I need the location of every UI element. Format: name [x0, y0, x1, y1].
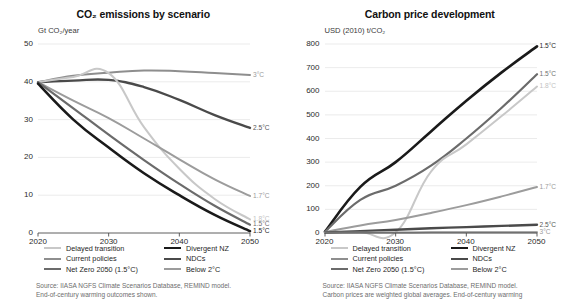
source-line: Carbon prices are weighted global averag… — [323, 290, 573, 299]
legend-row: Delayed transitionDivergent NZ — [331, 243, 571, 254]
y-axis-tick-label: 300 — [294, 157, 320, 166]
legend-item[interactable]: NDCs — [451, 254, 571, 263]
legend-item[interactable]: Current policies — [331, 254, 451, 263]
y-axis-tick-label: 40 — [7, 77, 33, 86]
series-end-label: 2.5°C — [540, 221, 557, 228]
y-axis-tick-label: 10 — [7, 190, 33, 199]
legend-swatch-icon — [451, 258, 468, 260]
legend-item[interactable]: Divergent NZ — [164, 244, 284, 253]
series-end-label: 3°C — [253, 71, 264, 78]
series-end-label: 1.5°C — [540, 42, 557, 49]
legend-item[interactable]: Below 2°C — [451, 265, 571, 274]
legend-item[interactable]: Net Zero 2050 (1.5°C) — [331, 265, 451, 274]
y-axis-tick-label: 0 — [7, 228, 33, 237]
series-line — [38, 82, 250, 225]
series-end-label: 1.7°C — [253, 192, 270, 199]
legend-swatch-icon — [331, 258, 348, 260]
y-axis-tick-label: 700 — [294, 63, 320, 72]
legend-swatch-icon — [331, 247, 348, 249]
legend-label: Net Zero 2050 (1.5°C) — [353, 265, 425, 274]
y-axis-tick-label: 30 — [7, 115, 33, 124]
y-axis-tick-label: 200 — [294, 181, 320, 190]
series-end-label: 1.8°C — [540, 82, 557, 89]
legend-row: Net Zero 2050 (1.5°C)Below 2°C — [331, 264, 571, 275]
legend-item[interactable]: NDCs — [164, 254, 284, 263]
legend-item[interactable]: Net Zero 2050 (1.5°C) — [44, 265, 164, 274]
legend-label: Delayed transition — [353, 244, 411, 253]
legend-label: Divergent NZ — [473, 244, 516, 253]
source-line: Source: IIASA NGFS Climate Scenarios Dat… — [323, 281, 573, 290]
source-line: End-of-century warming outcomes shown. — [36, 290, 286, 299]
legend-row: Delayed transitionDivergent NZ — [44, 243, 284, 254]
series-line — [38, 69, 250, 220]
legend-label: NDCs — [186, 254, 205, 263]
legend-label: Delayed transition — [66, 244, 124, 253]
legend-swatch-icon — [44, 247, 61, 249]
series-end-label: 1.5°C — [540, 70, 557, 77]
legend-item[interactable]: Divergent NZ — [451, 244, 571, 253]
series-line — [38, 79, 250, 128]
legend-item[interactable]: Current policies — [44, 254, 164, 263]
series-line — [325, 46, 537, 231]
legend-row: Current policiesNDCs — [331, 254, 571, 265]
legend-item[interactable]: Delayed transition — [331, 244, 451, 253]
legend-swatch-icon — [331, 268, 348, 270]
y-axis-tick-label: 600 — [294, 86, 320, 95]
y-axis-tick-label: 50 — [7, 39, 33, 48]
legend-item[interactable]: Below 2°C — [164, 265, 284, 274]
legend-swatch-icon — [164, 258, 181, 260]
legend-label: Below 2°C — [473, 265, 507, 274]
legend-row: Current policiesNDCs — [44, 254, 284, 265]
legend-swatch-icon — [164, 247, 181, 249]
legend-label: Below 2°C — [186, 265, 220, 274]
legend-swatch-icon — [44, 268, 61, 270]
y-axis-tick-label: 500 — [294, 110, 320, 119]
y-axis-tick-label: 400 — [294, 134, 320, 143]
y-axis-tick-label: 100 — [294, 204, 320, 213]
y-axis-tick-label: 20 — [7, 152, 33, 161]
source-note-right: Source: IIASA NGFS Climate Scenarios Dat… — [323, 281, 573, 300]
legend-left: Delayed transitionDivergent NZCurrent po… — [44, 243, 284, 275]
chart-page: CO₂ emissions by scenario Gt CO₂/year 01… — [0, 0, 573, 306]
series-end-label: 2.5°C — [253, 124, 270, 131]
y-axis-tick-label: 0 — [294, 228, 320, 237]
source-line: Source: IIASA NGFS Climate Scenarios Dat… — [36, 281, 286, 290]
legend-right: Delayed transitionDivergent NZCurrent po… — [331, 243, 571, 275]
legend-label: Current policies — [353, 254, 404, 263]
legend-swatch-icon — [164, 268, 181, 270]
legend-item[interactable]: Delayed transition — [44, 244, 164, 253]
legend-swatch-icon — [451, 268, 468, 270]
panel-co2-emissions: CO₂ emissions by scenario Gt CO₂/year 01… — [0, 0, 287, 306]
series-line — [38, 82, 250, 196]
legend-swatch-icon — [451, 247, 468, 249]
series-end-label: 1.7°C — [540, 183, 557, 190]
legend-label: Current policies — [66, 254, 117, 263]
legend-label: NDCs — [473, 254, 492, 263]
series-line — [325, 74, 537, 232]
series-end-label: 1.5°C — [253, 227, 270, 234]
legend-label: Divergent NZ — [186, 244, 229, 253]
legend-row: Net Zero 2050 (1.5°C)Below 2°C — [44, 264, 284, 275]
panel-carbon-price: Carbon price development USD (2010) t/CO… — [287, 0, 573, 306]
y-axis-tick-label: 800 — [294, 39, 320, 48]
legend-swatch-icon — [44, 258, 61, 260]
series-end-label: 3°C — [540, 228, 551, 235]
source-note-left: Source: IIASA NGFS Climate Scenarios Dat… — [36, 281, 286, 300]
legend-label: Net Zero 2050 (1.5°C) — [66, 265, 138, 274]
